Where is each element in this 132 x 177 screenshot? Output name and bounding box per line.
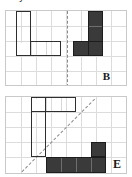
- inner-gridline: [32, 112, 45, 113]
- clipped-header-strip: ...n you measure that: [0, 0, 132, 9]
- mirror-line-vertical: [67, 11, 68, 86]
- panel-label-e: E: [113, 159, 121, 170]
- inner-gridline: [46, 42, 47, 55]
- inner-gridline: [17, 41, 30, 42]
- seam-mask: [33, 99, 45, 111]
- panel-e: E: [5, 96, 127, 174]
- inner-gridline: [32, 142, 45, 143]
- clipped-header-text: ...n you measure that: [2, 0, 98, 2]
- inner-gridline: [31, 42, 32, 55]
- panel-label-b: B: [103, 71, 110, 82]
- gridline-h: [6, 112, 126, 113]
- worksheet-figure: ...n you measure that: [0, 0, 132, 177]
- inner-gridline: [61, 98, 62, 111]
- inner-gridline: [32, 127, 45, 128]
- panel-b: B: [5, 10, 127, 86]
- gridline-v: [21, 97, 22, 173]
- gridline-v: [111, 97, 112, 173]
- gridline-v: [111, 11, 112, 85]
- shape-outline: [91, 142, 106, 157]
- gridline-h: [6, 142, 126, 143]
- inner-gridline: [17, 26, 30, 27]
- gridline-h: [6, 56, 126, 57]
- seam-mask: [18, 43, 30, 55]
- shape-outline: [46, 157, 106, 173]
- shape-outline: [73, 41, 103, 56]
- inner-gridline: [46, 98, 47, 111]
